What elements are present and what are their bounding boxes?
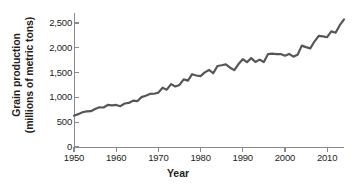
x-axis-tick-label: 1980 — [181, 152, 221, 163]
x-axis-tick-label: 1990 — [223, 152, 263, 163]
x-axis-tick-label: 2000 — [265, 152, 305, 163]
series-line-world-grain-production — [74, 19, 344, 115]
x-axis-title: Year — [0, 167, 356, 179]
y-axis-tick-mark — [74, 97, 79, 98]
x-axis-tick-label: 1960 — [96, 152, 136, 163]
x-axis-tick-label: 1950 — [54, 152, 94, 163]
y-axis-tick-mark — [74, 47, 79, 48]
y-axis-tick-mark — [74, 72, 79, 73]
y-axis-tick-mark — [74, 22, 79, 23]
y-axis-tick-mark — [74, 122, 79, 123]
chart-figure: Grain production (millions of metric ton… — [0, 0, 356, 189]
x-axis-tick-label: 1970 — [138, 152, 178, 163]
y-axis-tick-mark — [74, 146, 79, 147]
x-axis-tick-label: 2010 — [307, 152, 347, 163]
